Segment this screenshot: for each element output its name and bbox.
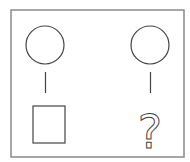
left-circle	[26, 26, 64, 64]
right-circle	[131, 26, 169, 64]
question-mark: ?	[138, 105, 162, 159]
right-column: ?	[131, 26, 169, 159]
left-square	[33, 106, 65, 143]
left-column	[26, 26, 65, 143]
analogy-diagram: ?	[0, 0, 190, 162]
